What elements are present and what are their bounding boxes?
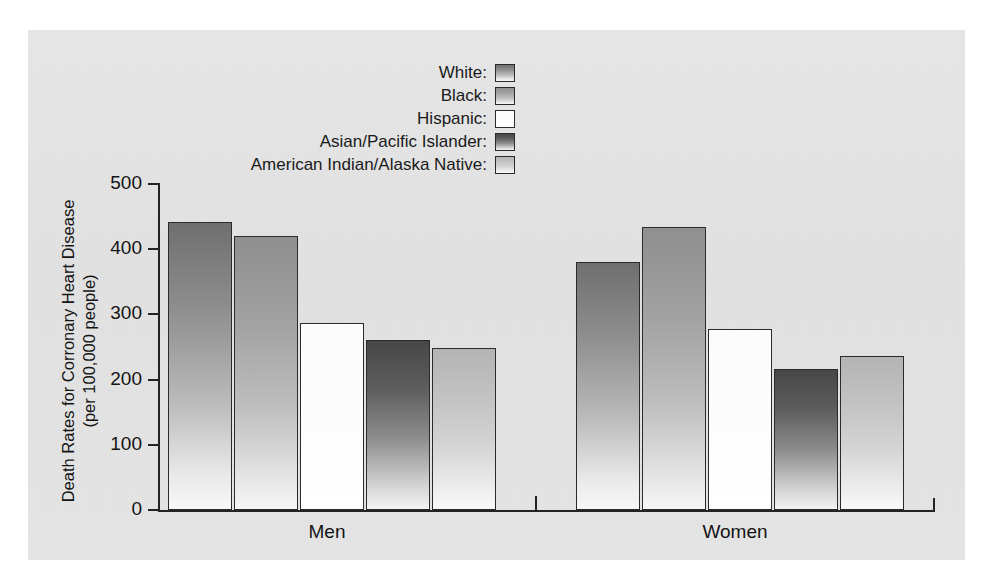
y-axis-title-line2: (per 100,000 people) [79,186,100,516]
x-axis-group-label-women: Women [655,521,815,543]
bar-women-white [576,262,640,510]
y-axis-tick-label-300: 300 [76,302,142,324]
y-axis-tick-500 [148,183,159,185]
y-axis-line [158,183,160,512]
y-axis-title: Death Rates for Corronary Heart Disease … [58,186,100,516]
y-axis-tick-200 [148,379,159,381]
group-divider-tick [535,496,537,511]
y-axis-tick-label-200: 200 [76,368,142,390]
bar-men-hispanic [300,323,364,510]
plot-area: Death Rates for Corronary Heart Disease … [0,0,989,580]
bar-men-asian-pacific-islander [366,340,430,510]
y-axis-tick-label-400: 400 [76,237,142,259]
bar-women-american-indian-alaska-native [840,356,904,510]
bar-men-black [234,236,298,510]
x-axis-group-label-men: Men [247,521,407,543]
y-axis-tick-100 [148,444,159,446]
bar-women-black [642,227,706,510]
y-axis-tick-400 [148,248,159,250]
y-axis-tick-0 [148,509,159,511]
y-axis-tick-label-0: 0 [76,498,142,520]
bar-men-white [168,222,232,510]
x-axis-line [158,510,935,512]
y-axis-tick-300 [148,313,159,315]
bar-men-american-indian-alaska-native [432,348,496,510]
y-axis-tick-label-500: 500 [76,172,142,194]
chart-figure: White: Black: Hispanic: Asian/Pacific Is… [0,0,989,580]
x-axis-end-cap [933,498,935,512]
bar-women-asian-pacific-islander [774,369,838,510]
bar-women-hispanic [708,329,772,510]
y-axis-title-line1: Death Rates for Corronary Heart Disease [58,186,79,516]
y-axis-tick-label-100: 100 [76,433,142,455]
